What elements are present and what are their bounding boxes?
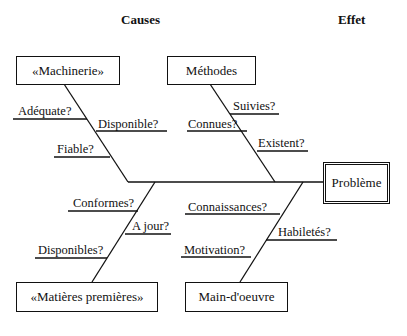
category-box-matieres: «Matières premières» [16,282,158,312]
cause-label: Disponible? [98,118,158,131]
cause-label: Existent? [258,137,305,150]
cause-label: Connaissances? [188,201,267,214]
cause-label: Fiable? [57,143,94,156]
cause-label: Habiletés? [278,226,331,239]
category-label: Main-d'oeuvre [199,289,275,305]
cause-label: Motivation? [184,244,245,257]
causes-header: Causes [121,13,160,26]
cause-label: Connues? [188,118,237,131]
category-box-methodes: Méthodes [167,56,256,85]
cause-label: Adéquate? [18,105,71,118]
cause-label: Suivies? [233,100,275,113]
bone-machinerie [64,84,128,182]
cause-label: Disponibles? [38,244,103,257]
category-label: Méthodes [186,63,237,79]
category-box-machinerie: «Machinerie» [16,56,120,85]
category-label: «Machinerie» [32,63,104,79]
category-label: «Matières premières» [31,289,144,305]
cause-label: Conformes? [73,197,134,210]
effect-label: Problème [332,175,382,191]
effect-header: Effet [338,13,365,26]
cause-label: A jour? [132,220,169,233]
effect-box: Problème [323,162,390,204]
category-box-main-oeuvre: Main-d'oeuvre [185,282,288,312]
